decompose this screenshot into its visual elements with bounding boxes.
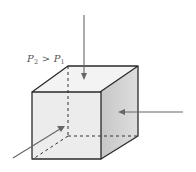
- p2-symbol: P: [27, 53, 34, 64]
- cube-figure: [0, 0, 196, 172]
- greater-than-operator: >: [42, 53, 51, 64]
- pressure-cube-diagram: P2 > P1: [0, 0, 196, 172]
- p1-subscript: 1: [61, 58, 65, 66]
- pressure-inequality-label: P2 > P1: [27, 53, 65, 66]
- p1-symbol: P: [54, 53, 61, 64]
- p2-subscript: 2: [34, 58, 38, 66]
- cube-front-face: [32, 92, 101, 159]
